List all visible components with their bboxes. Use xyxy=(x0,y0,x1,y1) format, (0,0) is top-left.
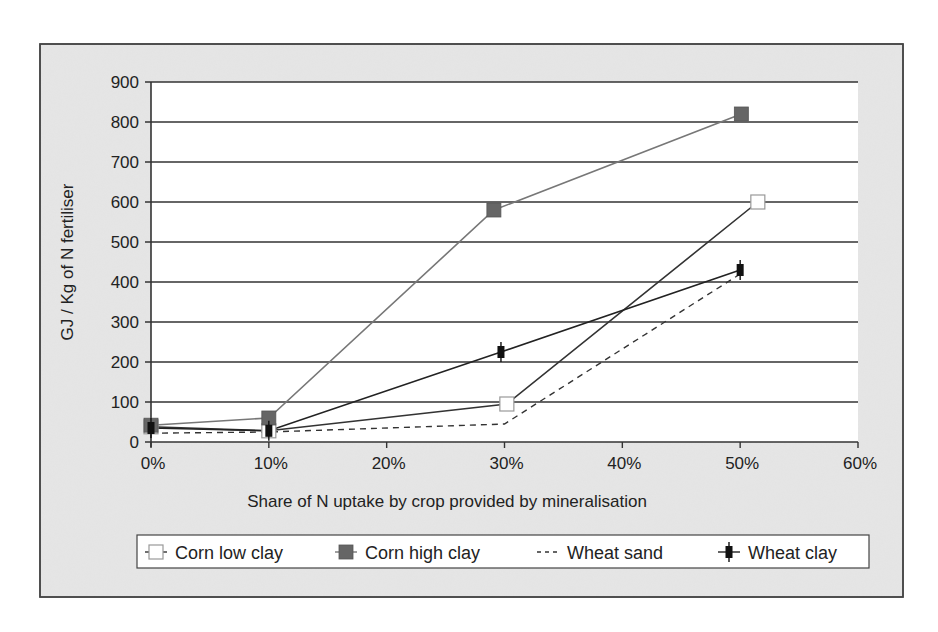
legend: Corn low clayCorn high clayWheat sandWhe… xyxy=(137,535,869,568)
legend-label: Wheat clay xyxy=(748,543,837,563)
legend-label: Corn high clay xyxy=(365,543,480,563)
x-axis-title: Share of N uptake by crop provided by mi… xyxy=(247,492,647,511)
x-tick-label: 0% xyxy=(141,454,166,473)
open-square-marker xyxy=(149,545,163,559)
open-square-marker xyxy=(500,397,514,411)
legend-label: Corn low clay xyxy=(175,543,283,563)
legend-label: Wheat sand xyxy=(567,543,663,563)
y-tick-label: 600 xyxy=(111,193,139,212)
y-tick-label: 900 xyxy=(111,73,139,92)
x-tick-label: 30% xyxy=(489,454,523,473)
x-tick-label: 50% xyxy=(725,454,759,473)
plot-area xyxy=(151,82,858,442)
y-tick-label: 100 xyxy=(111,393,139,412)
x-tick-label: 60% xyxy=(843,454,877,473)
y-tick-label: 0 xyxy=(130,433,139,452)
bar-marker xyxy=(737,264,744,276)
filled-square-marker xyxy=(487,203,501,217)
y-tick-label: 800 xyxy=(111,113,139,132)
bar-marker xyxy=(148,422,155,434)
y-tick-label: 400 xyxy=(111,273,139,292)
bar-marker xyxy=(726,546,733,558)
bar-marker xyxy=(265,425,272,437)
y-axis-title: GJ / Kg of N fertiliser xyxy=(58,183,77,340)
y-tick-label: 300 xyxy=(111,313,139,332)
open-square-marker xyxy=(751,195,765,209)
filled-square-marker xyxy=(339,545,353,559)
chart: 0100200300400500600700800900 0%10%20%30%… xyxy=(0,0,938,632)
x-tick-label: 10% xyxy=(254,454,288,473)
bar-marker xyxy=(497,346,504,358)
x-tick-label: 20% xyxy=(372,454,406,473)
y-tick-label: 200 xyxy=(111,353,139,372)
y-tick-label: 700 xyxy=(111,153,139,172)
y-tick-label: 500 xyxy=(111,233,139,252)
x-tick-label: 40% xyxy=(607,454,641,473)
filled-square-marker xyxy=(734,107,748,121)
